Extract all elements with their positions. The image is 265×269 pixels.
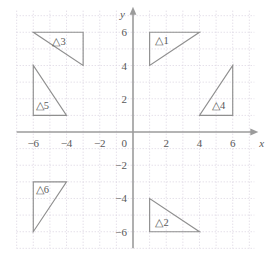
triangle-4-label: △4 [212,101,225,112]
coordinate-plane-figure: −6−4−2246642−2−4−60xy△1△2△3△4△5△6 [0,0,265,269]
y-tick-label: 4 [122,60,128,71]
coordinate-plane-svg [0,0,265,269]
triangle-3-label: △3 [52,37,65,48]
y-axis-label: y [120,9,125,20]
x-tick-label: 2 [163,138,169,149]
x-tick-label: 4 [197,138,203,149]
triangle-6-label: △6 [36,185,49,196]
x-tick-label: 6 [230,138,236,149]
x-tick-label: −6 [27,138,39,149]
y-tick-label: −6 [115,226,127,237]
x-axis-arrowhead [250,129,258,136]
triangle-1-label: △1 [155,36,168,47]
origin-label: 0 [122,138,128,149]
triangle-5-label: △5 [36,101,49,112]
y-tick-label: 6 [122,27,128,38]
y-axis-arrowhead [130,7,137,15]
x-tick-label: −2 [94,138,106,149]
triangle-2-label: △2 [155,217,168,228]
x-axis-label: x [259,138,264,149]
y-tick-label: 2 [122,93,128,104]
y-tick-label: −4 [115,193,127,204]
y-tick-label: −2 [115,160,127,171]
x-tick-label: −4 [61,138,73,149]
